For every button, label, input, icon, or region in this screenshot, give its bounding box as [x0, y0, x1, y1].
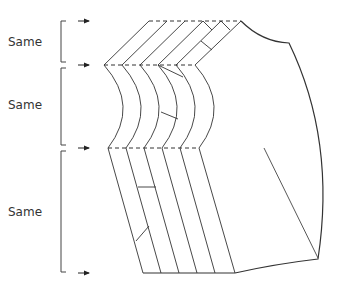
diagonal-mark	[264, 148, 318, 258]
bracket-bottom	[61, 151, 66, 272]
right-panel-outline	[235, 21, 323, 273]
bracket-top	[61, 21, 66, 62]
pattern-diagram	[0, 0, 338, 289]
strip-edges	[104, 21, 241, 273]
bracket-middle	[61, 68, 66, 145]
diagram-stage: Same Same Same	[0, 0, 338, 289]
arrow-icons	[78, 21, 89, 273]
